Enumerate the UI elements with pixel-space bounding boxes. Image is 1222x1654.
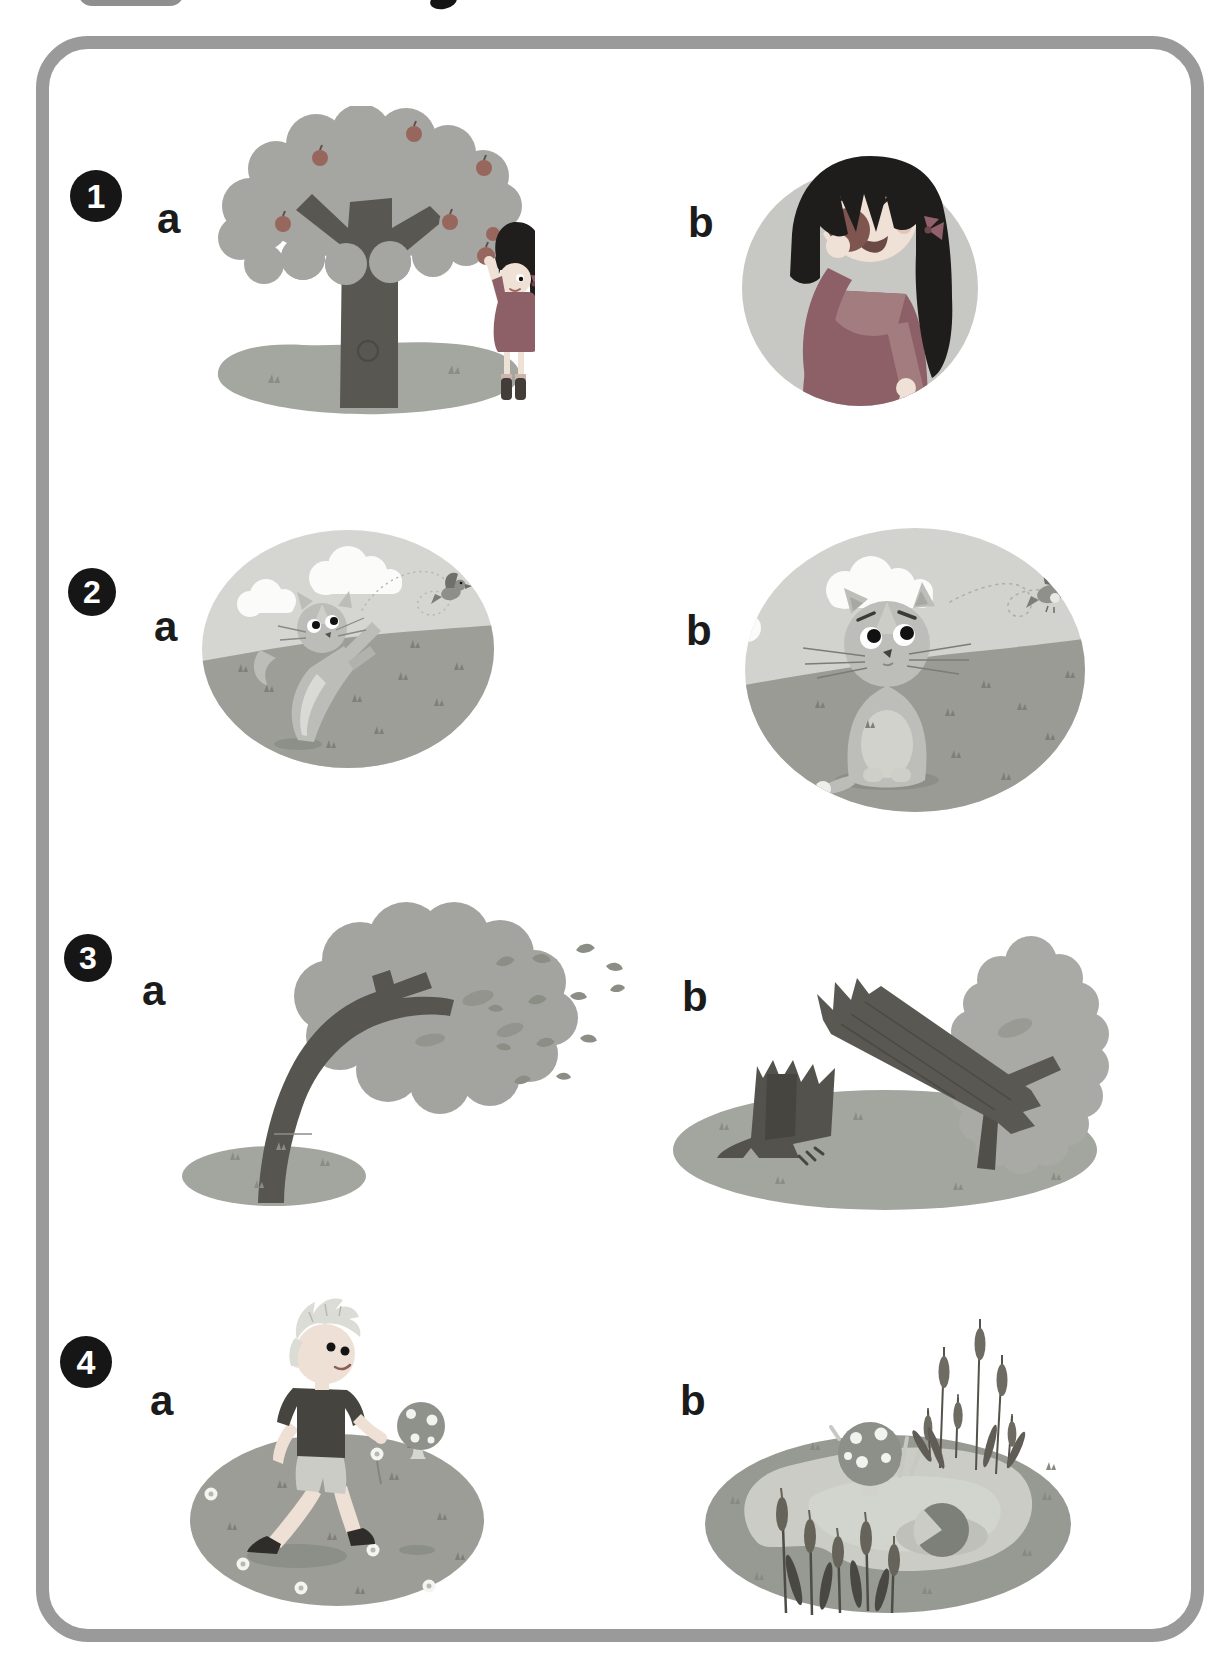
scene-1a-girl-picking-apple[interactable] <box>198 106 535 431</box>
cropped-header-tab <box>78 0 184 6</box>
scene-1b-girl-eating-apple[interactable] <box>736 130 984 410</box>
exercise-3-option-a-label: a <box>142 970 165 1012</box>
exercise-4-number-badge: 4 <box>60 1336 112 1388</box>
apple-tree-illustration <box>198 106 535 431</box>
exercise-1-option-a-label: a <box>157 198 180 240</box>
girl-eating-apple-illustration <box>736 130 984 410</box>
cat-sitting-illustration <box>745 528 1085 812</box>
pond-illustration <box>690 1298 1085 1615</box>
workbook-page: 1 2 3 4 a b a b a b a b <box>0 0 1222 1654</box>
exercise-4-option-a-label: a <box>150 1380 173 1422</box>
lowered-hand <box>896 378 917 406</box>
broken-tree-illustration <box>655 898 1110 1213</box>
exercise-1-option-b-label: b <box>688 202 714 244</box>
exercise-2-option-a-label: a <box>154 606 177 648</box>
exercise-3-number-badge: 3 <box>64 934 112 982</box>
scene-2a-cat-leaping-at-bird[interactable] <box>202 530 494 768</box>
exercise-1-number-badge: 1 <box>70 170 122 222</box>
scene-4b-pond[interactable] <box>690 1298 1085 1615</box>
scene-2b-cat-sitting-bird-away[interactable] <box>745 528 1085 812</box>
exercise-2-option-b-label: b <box>686 610 712 652</box>
cat-leaping-illustration <box>202 530 494 768</box>
scene-3a-tree-in-wind[interactable] <box>178 898 640 1210</box>
cropped-title-letter-descender <box>429 0 459 12</box>
exercise-2-number-badge: 2 <box>68 568 116 616</box>
windy-tree-illustration <box>178 898 640 1210</box>
boy-walking-illustration <box>185 1288 490 1608</box>
scene-3b-broken-tree[interactable] <box>655 898 1110 1213</box>
scene-4a-boy-walking[interactable] <box>185 1288 490 1608</box>
